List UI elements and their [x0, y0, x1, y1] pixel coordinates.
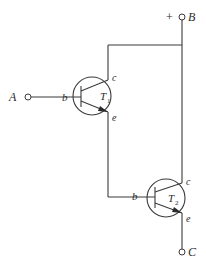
t2-base-label: b [132, 190, 138, 202]
t2-collector-label: c [186, 176, 191, 187]
terminal-a-label: A [8, 90, 17, 104]
t1-emitter-label: e [112, 112, 117, 123]
t2-subscript: 2 [175, 199, 179, 207]
t1-label: T [100, 90, 107, 102]
terminal-b: + B [166, 10, 196, 24]
t1-collector-label: c [112, 72, 117, 83]
terminal-b-label: B [188, 10, 196, 24]
t2-collector [155, 183, 182, 192]
terminal-c-label: C [188, 245, 197, 259]
terminal-a-node [25, 94, 31, 100]
plus-sign: + [166, 10, 173, 24]
t1-subscript: 1 [107, 97, 111, 105]
t2-label: T [168, 192, 175, 204]
t2-emitter-label: e [186, 213, 191, 224]
terminal-c-node [179, 249, 185, 255]
circuit-diagram: + B T 1 b c e A T 2 b c e [0, 0, 206, 270]
terminal-a: A [8, 90, 81, 104]
terminal-b-node [179, 14, 185, 20]
